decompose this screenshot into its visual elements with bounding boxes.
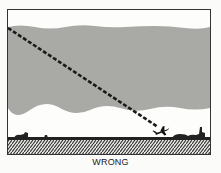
cloud-band (8, 25, 210, 115)
figure-caption: WRONG (0, 157, 221, 167)
diagram-figure (0, 0, 221, 173)
hatched-ground (8, 140, 210, 154)
